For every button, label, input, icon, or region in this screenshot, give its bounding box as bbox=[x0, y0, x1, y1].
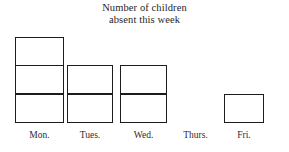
bar-unit-cell bbox=[15, 94, 64, 123]
x-axis-label-1: Tues. bbox=[64, 130, 116, 141]
bar-tues bbox=[67, 66, 113, 123]
bar-unit-cell bbox=[67, 65, 113, 94]
x-axis-label-0: Mon. bbox=[12, 130, 67, 141]
bar-unit-cell bbox=[15, 65, 64, 94]
bar-chart: Number of children absent this week Mon.… bbox=[0, 0, 289, 152]
bar-unit-cell bbox=[120, 65, 167, 94]
bar-unit-cell bbox=[67, 94, 113, 123]
bar-wed bbox=[120, 66, 167, 123]
bar-mon bbox=[15, 39, 64, 123]
bar-fri bbox=[224, 94, 264, 123]
plot-area: Mon.Tues.Wed.Thurs.Fri. bbox=[0, 0, 289, 152]
bar-unit-cell bbox=[15, 37, 64, 66]
x-axis-label-3: Thurs. bbox=[168, 130, 223, 141]
x-axis-label-4: Fri. bbox=[219, 130, 269, 141]
bar-unit-cell bbox=[224, 94, 264, 123]
x-axis-label-2: Wed. bbox=[117, 130, 170, 141]
bar-unit-cell bbox=[120, 94, 167, 123]
